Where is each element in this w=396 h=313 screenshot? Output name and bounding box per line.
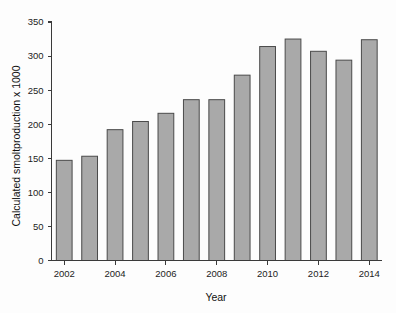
bar-2010 [260,47,276,261]
x-tick-label-2014: 2014 [359,268,380,279]
bar-2003 [82,156,98,260]
bar-2004 [107,130,123,261]
y-tick-label-250: 250 [28,85,44,96]
bar-2005 [133,121,149,260]
y-tick-label-100: 100 [28,187,44,198]
bar-2011 [285,39,301,260]
y-tick-label-200: 200 [28,119,44,130]
y-tick-label-50: 50 [33,221,44,232]
x-tick-label-2012: 2012 [308,268,329,279]
x-tick-label-2010: 2010 [257,268,278,279]
y-axis-title: Calculated smoltproduction x 1000 [10,65,22,226]
bar-2013 [336,60,352,260]
bar-2006 [158,113,174,260]
bar-2012 [311,51,327,260]
y-tick-label-300: 300 [28,50,44,61]
x-tick-label-2008: 2008 [206,268,227,279]
x-tick-label-2006: 2006 [155,268,176,279]
bar-2007 [183,100,199,261]
x-tick-label-2004: 2004 [104,268,125,279]
chart-figure: 050100150200250300350 200220042006200820… [0,0,396,313]
y-tick-label-0: 0 [38,255,43,266]
x-axis-title: Year [205,291,227,303]
y-tick-label-350: 350 [28,16,44,27]
y-tick-label-150: 150 [28,153,44,164]
bar-2009 [234,75,250,260]
x-tick-label-2002: 2002 [54,268,75,279]
bar-2002 [56,160,72,260]
bar-2014 [361,40,377,261]
bar-2008 [209,100,225,261]
bar-chart-svg: 050100150200250300350 200220042006200820… [0,0,396,313]
